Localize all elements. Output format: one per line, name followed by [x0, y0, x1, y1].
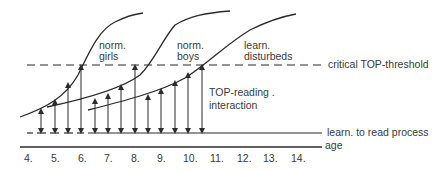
norm-boys-label-line2: boys	[177, 51, 204, 62]
age-tick-13: 13.	[263, 152, 278, 164]
interaction-label-line1: TOP-reading .	[209, 86, 275, 99]
age-tick-10: 10.	[183, 152, 198, 164]
interaction-label-line2: interaction	[209, 99, 275, 112]
age-tick-14: 14.	[291, 152, 306, 164]
age-tick-9: 9.	[157, 152, 166, 164]
age-tick-5: 5.	[51, 152, 60, 164]
age-tick-4: 4.	[24, 152, 33, 164]
age-axis-label: age	[325, 140, 343, 151]
norm-boys-label: norm. boys	[177, 40, 204, 62]
interaction-arrows	[41, 67, 202, 131]
norm-girls-label-line2: girls	[99, 51, 126, 62]
age-tick-12: 12.	[237, 152, 252, 164]
interaction-label: TOP-reading . interaction	[209, 86, 275, 112]
top-reading-diagram: norm. girls norm. boys learn. disturbeds…	[0, 0, 445, 171]
age-tick-7: 7.	[104, 152, 113, 164]
process-label: learn. to read process	[327, 127, 429, 138]
age-tick-11: 11.	[210, 152, 224, 164]
learn-disturbeds-label: learn. disturbeds	[244, 40, 292, 62]
learn-disturbeds-label-line2: disturbeds	[244, 51, 292, 62]
age-tick-6: 6.	[78, 152, 87, 164]
critical-threshold-label: critical TOP-threshold	[328, 59, 429, 70]
norm-girls-label: norm. girls	[99, 40, 126, 62]
age-tick-8: 8.	[131, 152, 140, 164]
